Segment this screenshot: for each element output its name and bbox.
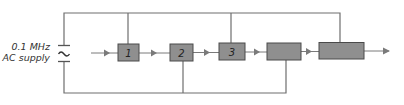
arrow-icon [383,48,390,55]
arrow-icon [204,49,210,56]
top-rail [64,13,340,45]
block-3-label: 3 [229,47,235,58]
arrow-icon [151,50,157,57]
bottom-rail [64,60,286,93]
arrow-icon [306,48,312,55]
arrow-icon [104,50,110,57]
block-1-label: 1 [125,48,131,59]
block-3: 3 [219,43,245,60]
block-2: 2 [170,44,193,61]
block-5 [319,43,364,60]
source-type-label: AC supply [2,52,51,63]
arrow-icon [254,49,260,56]
block-2-label: 2 [178,48,184,59]
source-frequency-label: 0.1 MHz [12,41,51,52]
block-4 [267,43,301,60]
block-1: 1 [118,44,139,61]
block-diagram: 0.1 MHz AC supply 1 2 3 [0,0,404,105]
ac-source-icon [58,46,70,62]
